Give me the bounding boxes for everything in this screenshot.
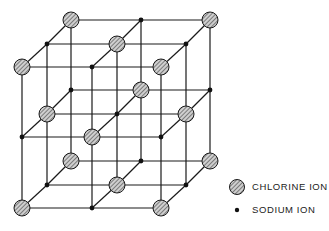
sodium-ion [45,42,50,47]
legend [230,180,245,213]
chlorine-ion [178,106,194,122]
chlorine-ion [63,153,79,169]
nacl-lattice-diagram [0,0,329,231]
sodium-ion [90,206,95,211]
chlorine-ion [14,200,30,216]
chlorine-ion [153,200,169,216]
chlorine-ion [153,59,169,75]
sodium-ion [69,88,74,93]
sodium-ion [90,65,95,70]
chlorine-ion-legend-icon [230,180,245,195]
lattice-ions [14,12,218,216]
chlorine-ion [63,12,79,28]
chlorine-ion [133,82,149,98]
chlorine-ion [39,106,55,122]
legend-sodium-label: SODIUM ION [252,204,316,215]
sodium-ion [208,88,213,93]
chlorine-ion [109,36,125,52]
sodium-ion [115,112,120,117]
sodium-ion-legend-icon [235,208,239,212]
sodium-ion [139,159,144,164]
sodium-ion [20,135,25,140]
chlorine-ion [109,177,125,193]
chlorine-ion [202,12,218,28]
sodium-ion [159,135,164,140]
sodium-ion [139,18,144,23]
chlorine-ion [14,59,30,75]
chlorine-ion [202,153,218,169]
sodium-ion [184,183,189,188]
legend-chlorine-label: CHLORINE ION [252,181,328,192]
chlorine-ion [84,129,100,145]
sodium-ion [184,42,189,47]
sodium-ion [45,183,50,188]
